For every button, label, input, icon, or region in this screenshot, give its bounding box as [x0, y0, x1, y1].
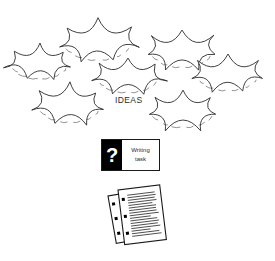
- writing-task-label: Writing task: [122, 140, 159, 170]
- punch-hole: [114, 217, 117, 220]
- writing-task-line-2: task: [135, 155, 146, 164]
- writing-task-card[interactable]: ? Writing task: [101, 139, 160, 171]
- writing-task-line-1: Writing: [131, 146, 150, 155]
- question-mark-icon: ?: [102, 140, 122, 170]
- punch-hole: [126, 232, 129, 235]
- ideas-label: IDEAS: [115, 95, 143, 105]
- paper-sheet-front: [118, 185, 166, 245]
- paper-outline: [118, 185, 166, 245]
- punch-hole: [124, 215, 127, 218]
- punch-hole: [117, 231, 120, 234]
- diagram-canvas: [0, 0, 275, 261]
- punch-hole: [122, 198, 125, 201]
- punch-hole: [112, 202, 115, 205]
